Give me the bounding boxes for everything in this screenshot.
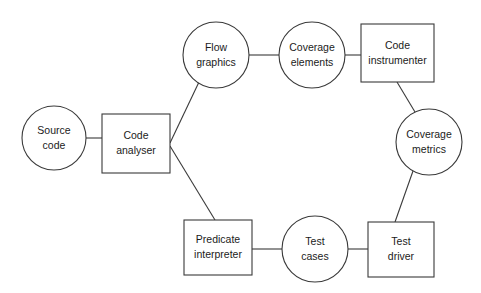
test-driver-label-line2: driver bbox=[388, 250, 415, 262]
test-cases-label-line2: cases bbox=[301, 250, 328, 262]
edge-predicate-interpreter-to-code-analyser bbox=[170, 146, 215, 220]
test-cases-label-line1: Test bbox=[305, 235, 324, 247]
node-test-driver[interactable]: Test driver bbox=[368, 222, 434, 277]
node-flow-graphics[interactable]: Flow graphics bbox=[183, 22, 249, 88]
predicate-interpreter-label-line2: interpreter bbox=[194, 248, 242, 260]
node-source-code[interactable]: Source code bbox=[22, 106, 86, 170]
flow-graphics-label-line2: graphics bbox=[196, 56, 236, 68]
node-coverage-elements[interactable]: Coverage elements bbox=[279, 22, 345, 88]
source-code-label-line1: Source bbox=[37, 124, 70, 136]
node-predicate-interpreter[interactable]: Predicate interpreter bbox=[184, 220, 252, 275]
edge-code-analyser-to-flow-graphics bbox=[170, 82, 199, 143]
coverage-metrics-label-line1: Coverage bbox=[406, 128, 452, 140]
node-test-cases[interactable]: Test cases bbox=[282, 216, 348, 282]
node-coverage-metrics[interactable]: Coverage metrics bbox=[396, 109, 462, 175]
data-flow-diagram: Source code Code analyser Flow graphics … bbox=[0, 0, 481, 293]
coverage-metrics-label-line2: metrics bbox=[412, 143, 446, 155]
diagram-canvas: Source code Code analyser Flow graphics … bbox=[0, 0, 481, 293]
test-driver-label-line1: Test bbox=[391, 235, 410, 247]
coverage-elements-label-line2: elements bbox=[291, 56, 334, 68]
node-code-instrumenter[interactable]: Code instrumenter bbox=[361, 24, 434, 82]
code-analyser-label-line1: Code bbox=[123, 129, 148, 141]
node-code-analyser[interactable]: Code analyser bbox=[102, 114, 170, 173]
flow-graphics-label-line1: Flow bbox=[205, 41, 228, 53]
code-analyser-label-line2: analyser bbox=[116, 144, 156, 156]
predicate-interpreter-label-line1: Predicate bbox=[196, 233, 241, 245]
code-instrumenter-label-line2: instrumenter bbox=[368, 54, 427, 66]
code-instrumenter-label-line1: Code bbox=[385, 39, 410, 51]
edge-coverage-metrics-to-test-driver bbox=[395, 171, 413, 222]
coverage-elements-label-line1: Coverage bbox=[289, 41, 335, 53]
edge-code-instrumenter-to-coverage-metrics bbox=[397, 82, 415, 112]
source-code-label-line2: code bbox=[43, 139, 66, 151]
